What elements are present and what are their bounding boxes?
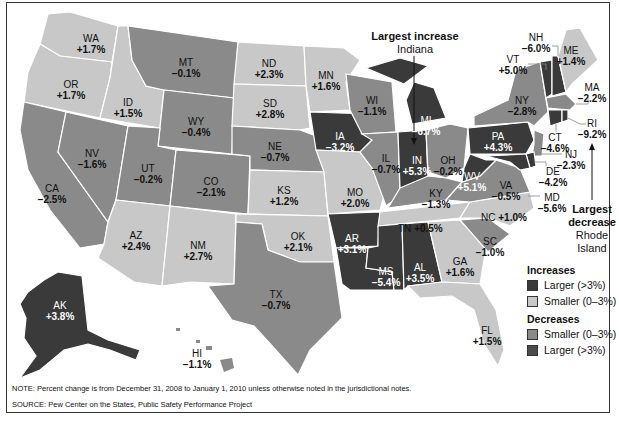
- state-abbr: NY: [508, 95, 537, 106]
- state-value: −9.2%: [578, 129, 607, 140]
- state-value: −0.7%: [261, 152, 290, 163]
- label-IN: IN+5.3%: [403, 155, 432, 177]
- state-FL: [408, 282, 504, 366]
- state-value: −6.0%: [522, 43, 551, 54]
- legend: Increases Larger (>3%) Smaller (0–3%) De…: [527, 262, 616, 360]
- state-abbr: MA: [578, 82, 607, 93]
- label-ID: ID+1.5%: [114, 97, 143, 119]
- label-VA: VA−0.5%: [492, 180, 521, 202]
- largest-increase-callout: Largest increase Indiana: [370, 30, 460, 56]
- label-WA: WA+1.7%: [77, 33, 106, 55]
- state-abbr: AZ: [122, 230, 151, 241]
- state-AK: [20, 272, 140, 378]
- state-abbr: OK: [284, 231, 313, 242]
- label-MN: MN+1.6%: [312, 70, 341, 92]
- label-MS: MS−5.4%: [372, 266, 401, 288]
- state-value: −3.2%: [326, 142, 355, 153]
- state-value: −0.2%: [134, 174, 163, 185]
- label-NV: NV−1.6%: [78, 148, 107, 170]
- label-DE: DE−4.2%: [539, 166, 568, 188]
- state-abbr: VA: [492, 180, 521, 191]
- state-abbr: FL: [473, 325, 502, 336]
- state-abbr: NH: [522, 32, 551, 43]
- state-abbr: DE: [539, 166, 568, 177]
- label-ND: ND+2.3%: [255, 58, 284, 80]
- label-NH: NH−6.0%: [522, 32, 551, 54]
- state-value: +2.1%: [284, 242, 313, 253]
- label-AR: AR+3.1%: [338, 233, 367, 255]
- state-abbr: OH: [434, 155, 463, 166]
- state-abbr: GA: [446, 256, 475, 267]
- state-abbr: CA: [38, 183, 67, 194]
- state-value: +1.7%: [77, 44, 106, 55]
- label-NM: NM+2.7%: [184, 240, 213, 262]
- state-abbr: KS: [270, 185, 299, 196]
- label-NY: NY−2.8%: [508, 95, 537, 117]
- state-abbr: TN: [398, 223, 411, 234]
- legend-item: Smaller (0–3%): [527, 295, 616, 307]
- label-VT: VT+5.0%: [499, 54, 528, 76]
- label-FL: FL+1.5%: [473, 325, 502, 347]
- state-value: −4.2%: [539, 177, 568, 188]
- state-abbr: SD: [256, 98, 285, 109]
- legend-item: Larger (>3%): [527, 344, 616, 356]
- state-abbr: WI: [358, 95, 387, 106]
- state-RI: [562, 110, 568, 122]
- legend-header-increases: Increases: [527, 264, 616, 276]
- state-abbr: OR: [57, 79, 86, 90]
- legend-label: Larger (>3%): [544, 279, 606, 291]
- label-WI: WI−1.1%: [358, 95, 387, 117]
- callout-title: Largest increase: [370, 30, 460, 43]
- state-abbr: CT: [541, 132, 570, 143]
- state-abbr: HI: [183, 348, 212, 359]
- state-value: −1.0%: [476, 247, 505, 258]
- state-abbr: NE: [261, 141, 290, 152]
- state-value: +3.6%: [344, 307, 373, 318]
- state-value: +2.8%: [256, 109, 285, 120]
- state-abbr: MT: [172, 57, 201, 68]
- label-OK: OK+2.1%: [284, 231, 313, 253]
- label-WV: WV+5.1%: [458, 171, 487, 193]
- state-value: +1.5%: [473, 336, 502, 347]
- state-value: +1.0%: [498, 212, 527, 223]
- state-value: +5.3%: [403, 166, 432, 177]
- label-KS: KS+1.2%: [270, 185, 299, 207]
- state-value: −0.7%: [372, 164, 401, 175]
- legend-label: Larger (>3%): [544, 344, 606, 356]
- label-TN: TN +0.5%: [398, 223, 443, 234]
- legend-header-decreases: Decreases: [527, 313, 616, 325]
- callout-subtitle: Island: [566, 242, 618, 255]
- state-value: −6.7%: [412, 126, 441, 137]
- state-value: +3.5%: [406, 273, 435, 284]
- state-value: −1.1%: [183, 359, 212, 370]
- state-value: +1.6%: [312, 81, 341, 92]
- state-value: +5.1%: [458, 182, 487, 193]
- legend-label: Smaller (0–3%): [544, 295, 616, 307]
- label-AK: AK+3.8%: [46, 300, 75, 322]
- callout-subtitle: Indiana: [397, 43, 433, 55]
- swatch-decrease-larger: [527, 345, 538, 356]
- state-value: −0.1%: [172, 68, 201, 79]
- state-value: +2.0%: [341, 198, 370, 209]
- state-abbr: RI: [578, 118, 607, 129]
- state-abbr: UT: [134, 163, 163, 174]
- state-abbr: NM: [184, 240, 213, 251]
- label-OR: OR+1.7%: [57, 79, 86, 101]
- footer-note: NOTE: Percent change is from December 31…: [12, 384, 411, 393]
- state-value: +0.5%: [414, 223, 443, 234]
- state-value: +2.3%: [255, 69, 284, 80]
- label-MO: MO+2.0%: [341, 187, 370, 209]
- label-CA: CA−2.5%: [38, 183, 67, 205]
- state-abbr: WY: [182, 116, 211, 127]
- state-value: +4.3%: [484, 142, 513, 153]
- swatch-increase-smaller: [527, 296, 538, 307]
- state-abbr: AR: [338, 233, 367, 244]
- state-abbr: CO: [197, 176, 226, 187]
- state-abbr: WV: [458, 171, 487, 182]
- state-value: +2.4%: [122, 241, 151, 252]
- label-UT: UT−0.2%: [134, 163, 163, 185]
- state-abbr: AK: [46, 300, 75, 311]
- label-AL: AL+3.5%: [406, 262, 435, 284]
- state-value: −5.6%: [538, 203, 567, 214]
- state-MA: [546, 94, 576, 110]
